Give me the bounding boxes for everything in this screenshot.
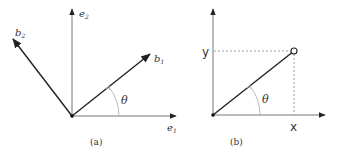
theta-label-a: θ	[121, 94, 128, 107]
panel-a: e2 e1 b1 b2 θ (a)	[13, 8, 177, 147]
theta-arc-b	[250, 86, 260, 115]
diagram-canvas: e2 e1 b1 b2 θ (a) y x θ (b)	[0, 0, 339, 155]
b1-label: b1	[154, 53, 164, 65]
panel-b: y x θ (b)	[202, 9, 325, 147]
e1-label: e1	[167, 122, 177, 134]
b2-label: b2	[15, 27, 25, 39]
origin-dot-a	[70, 114, 74, 118]
caption-b: (b)	[230, 137, 243, 147]
caption-a: (a)	[90, 137, 102, 147]
x-label: x	[290, 120, 297, 134]
e2-label: e2	[79, 8, 89, 20]
theta-arc-a	[109, 87, 119, 116]
b2-vector	[13, 39, 72, 116]
theta-label-b: θ	[262, 93, 269, 106]
y-label: y	[202, 45, 209, 59]
radius-line	[213, 53, 292, 115]
origin-dot-b	[211, 113, 215, 117]
point-marker	[291, 48, 297, 54]
b1-vector	[72, 54, 150, 116]
